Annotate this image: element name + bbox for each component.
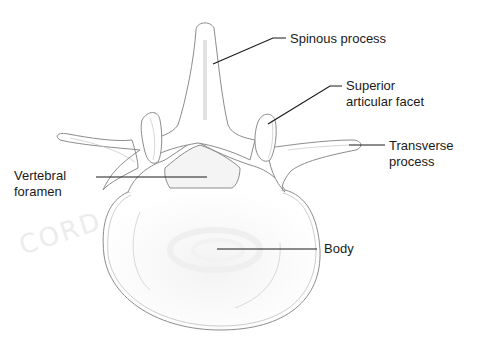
label-vertebral-foramen: Vertebral foramen: [14, 168, 66, 200]
vertebral-body: [103, 187, 320, 330]
leader-line-spinous-process: [213, 38, 286, 64]
vertebra-illustration: [0, 0, 479, 348]
vertebra-diagram: CORD Spinous process Superior articular …: [0, 0, 479, 348]
label-transverse-process: Transverse process: [389, 138, 454, 170]
label-spinous-process: Spinous process: [290, 31, 386, 47]
leader-line-superior-articular-facet: [268, 86, 342, 124]
label-superior-articular-facet: Superior articular facet: [346, 78, 424, 110]
left-transverse-process: [57, 133, 140, 190]
label-body: Body: [324, 241, 354, 257]
left-articular-facet: [141, 113, 162, 164]
right-transverse-process: [268, 140, 361, 192]
